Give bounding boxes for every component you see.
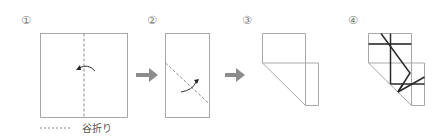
step-4-diagram <box>369 34 425 106</box>
legend-label: 谷折り <box>82 122 112 134</box>
step-number-3: ③ <box>242 14 252 27</box>
valley-fold-line <box>166 63 210 104</box>
origami-diagram: ① ② ③ ④ <box>0 0 441 137</box>
step-number-2: ② <box>147 14 157 27</box>
fold-arrow-icon <box>79 66 95 71</box>
folded-flap <box>263 63 319 106</box>
step-arrow-icon <box>136 68 158 82</box>
step-1-diagram <box>41 34 128 118</box>
step-3-diagram <box>263 34 319 106</box>
step-number-4: ④ <box>348 14 358 27</box>
paper-rect <box>166 34 210 118</box>
fold-arrow-icon <box>181 82 196 92</box>
step-number-1: ① <box>21 14 31 27</box>
fold-arrow-head-icon <box>76 65 81 70</box>
fold-arrow-head-icon <box>194 79 199 84</box>
step-arrow-icon <box>225 68 245 82</box>
legend: 谷折り <box>40 122 112 134</box>
step-2-diagram <box>166 34 210 118</box>
